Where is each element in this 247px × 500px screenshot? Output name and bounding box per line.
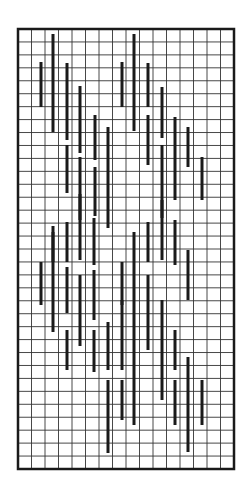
pattern-bar: [161, 300, 164, 400]
pattern-bar: [66, 63, 69, 140]
pattern-bar: [174, 220, 177, 265]
pattern-bar: [93, 330, 96, 372]
pattern-bar: [66, 267, 69, 313]
pattern-bar: [121, 62, 124, 107]
pattern-bar: [107, 127, 110, 228]
pattern-bar: [79, 275, 82, 346]
pattern-bar: [40, 262, 43, 305]
pattern-bar: [94, 115, 97, 160]
pattern-bar: [133, 330, 136, 425]
pattern-bar: [79, 86, 82, 153]
pattern-bar: [201, 380, 204, 425]
pattern-bar: [187, 127, 190, 167]
pattern-bar: [52, 34, 55, 132]
pattern-bar: [121, 300, 124, 370]
pattern-bar: [201, 157, 204, 200]
pattern-bar: [52, 232, 55, 332]
pattern-bar: [133, 232, 136, 330]
pattern-bar: [147, 63, 150, 107]
pattern-bar: [79, 194, 82, 260]
pattern-bar: [161, 200, 164, 260]
pattern-bar: [174, 330, 177, 370]
pattern-bar: [147, 275, 150, 350]
pattern-bar: [40, 62, 43, 107]
pattern-bars: [40, 34, 204, 453]
pattern-bar: [94, 167, 97, 216]
pattern-bar: [66, 222, 69, 262]
pattern-bar: [161, 87, 164, 138]
pattern-grid: [0, 0, 247, 500]
pattern-bar: [133, 34, 136, 131]
pattern-bar: [147, 115, 150, 165]
pattern-bar: [147, 222, 150, 262]
pattern-bar: [121, 262, 124, 305]
pattern-bar: [66, 145, 69, 193]
pattern-bar: [93, 270, 96, 320]
pattern-bar: [107, 380, 110, 453]
pattern-bar: [174, 117, 177, 200]
pattern-bar: [174, 380, 177, 425]
pattern-bar: [93, 218, 96, 265]
pattern-bar: [187, 250, 190, 300]
pattern-bar: [187, 357, 190, 452]
pattern-bar: [121, 380, 124, 420]
pattern-bar: [107, 322, 110, 370]
pattern-bar: [66, 330, 69, 370]
